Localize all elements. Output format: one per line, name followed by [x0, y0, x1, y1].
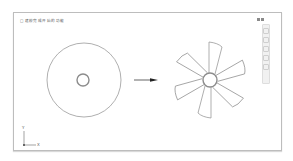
x-axis-label: X	[37, 142, 40, 147]
transform-arrow-icon	[134, 78, 158, 81]
drawing-canvas	[0, 0, 293, 161]
disk-shape[interactable]	[47, 43, 121, 117]
y-axis-label: Y	[22, 125, 24, 130]
fan-shape[interactable]	[171, 42, 249, 118]
ucs-axis-icon	[23, 131, 36, 146]
